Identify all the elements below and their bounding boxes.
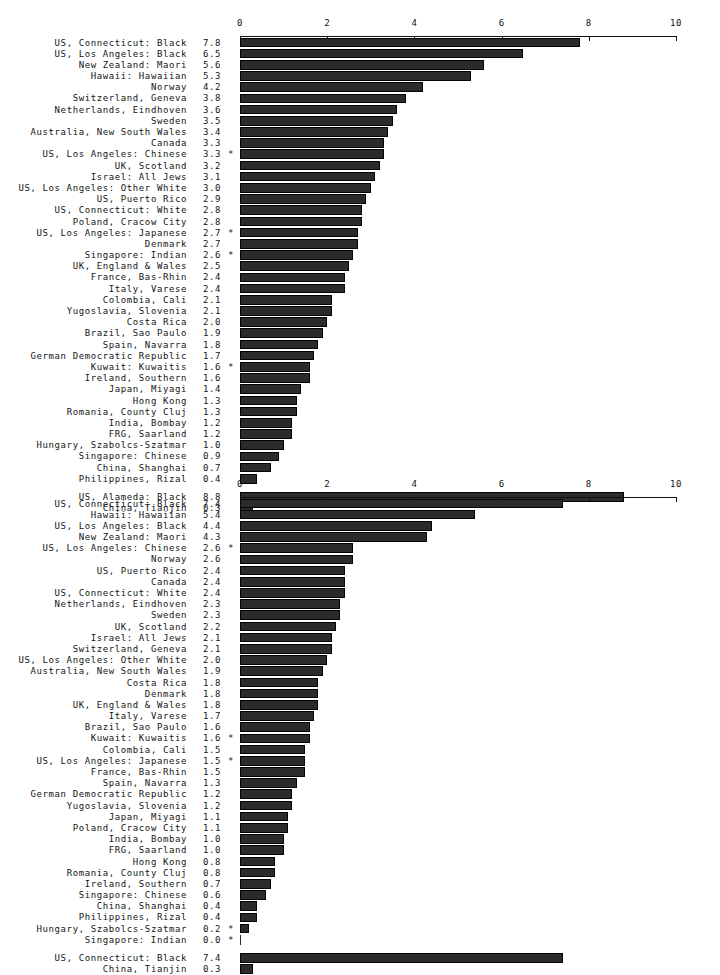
chart-row: US, Los Angeles: Black4.4 <box>0 520 720 531</box>
value-label: 2.4 <box>191 272 221 282</box>
value-label: 2.1 <box>191 295 221 305</box>
category-label: Kuwait: Kuwaitis <box>1 733 187 743</box>
bar <box>240 610 340 620</box>
category-label: US, Connecticut: Black <box>1 953 187 963</box>
bar <box>240 94 406 104</box>
category-label: Ireland, Southern <box>1 373 187 383</box>
row-label-wrap: Japan, Miyagi <box>0 811 187 822</box>
value-label: 2.1 <box>191 633 221 643</box>
value-label: 5.4 <box>191 510 221 520</box>
row-label-wrap: Colombia, Cali <box>0 294 187 305</box>
category-label: US, Los Angeles: Other White <box>1 655 187 665</box>
chart-row: Israel: All Jews2.1 <box>0 632 720 643</box>
row-label-wrap: Singapore: Indian <box>0 934 187 945</box>
value-label: 1.8 <box>191 700 221 710</box>
chart-row: Singapore: Indian2.6* <box>0 250 720 261</box>
category-label: Denmark <box>1 689 187 699</box>
category-label: Australia, New South Wales <box>1 666 187 676</box>
bar <box>240 644 332 654</box>
row-label-wrap: Canada <box>0 576 187 587</box>
x-axis-tick-label: 2 <box>324 18 330 28</box>
bar <box>240 890 266 900</box>
category-label: Costa Rica <box>1 678 187 688</box>
chart-row: US, Connecticut: Black7.8 <box>0 37 720 48</box>
value-label: 1.8 <box>191 678 221 688</box>
value-label: 2.4 <box>191 566 221 576</box>
chart-row: Costa Rica2.0 <box>0 317 720 328</box>
chart-row: Philippines, Rizal0.4 <box>0 912 720 923</box>
category-label: Norway <box>1 82 187 92</box>
row-label-wrap: US, Los Angeles: Other White <box>0 182 187 193</box>
category-label: US, Los Angeles: Chinese <box>1 543 187 553</box>
category-label: Australia, New South Wales <box>1 127 187 137</box>
chart-row: Hungary, Szabolcs-Szatmar1.0 <box>0 440 720 451</box>
bar <box>240 655 327 665</box>
category-label: Colombia, Cali <box>1 745 187 755</box>
category-label: US, Connecticut: Black <box>1 499 187 509</box>
chart-row: China, Shanghai0.7 <box>0 462 720 473</box>
value-label: 4.3 <box>191 532 221 542</box>
bar <box>240 700 318 710</box>
row-label-wrap: UK, Scotland <box>0 160 187 171</box>
bar <box>240 149 384 159</box>
value-label: 2.1 <box>191 306 221 316</box>
value-label: 1.2 <box>191 418 221 428</box>
category-label: Israel: All Jews <box>1 633 187 643</box>
value-label: 1.7 <box>191 351 221 361</box>
category-label: Israel: All Jews <box>1 172 187 182</box>
value-label: 1.5 <box>191 756 221 766</box>
chart-row: US, Los Angeles: Other White3.0 <box>0 182 720 193</box>
bar <box>240 161 380 171</box>
chart-row: US, Connecticut: Black7.4 <box>0 498 720 509</box>
row-label-wrap: Israel: All Jews <box>0 171 187 182</box>
row-label-wrap: UK, England & Wales <box>0 699 187 710</box>
chart-row: Colombia, Cali1.5 <box>0 744 720 755</box>
category-label: Canada <box>1 577 187 587</box>
chart-row: Switzerland, Geneva2.1 <box>0 643 720 654</box>
row-label-wrap: China, Shanghai <box>0 462 187 473</box>
row-label-wrap: Australia, New South Wales <box>0 666 187 677</box>
x-axis-tick-label: 0 <box>237 479 243 489</box>
category-label: Colombia, Cali <box>1 295 187 305</box>
bar <box>240 105 397 115</box>
x-axis-tick-label: 6 <box>499 18 505 28</box>
value-label: 2.7 <box>191 239 221 249</box>
chart-row: Spain, Navarra1.3 <box>0 778 720 789</box>
row-label-wrap: Italy, Varese <box>0 711 187 722</box>
row-label-wrap: US, Connecticut: Black <box>0 498 187 509</box>
row-label-wrap: US, Los Angeles: Black <box>0 520 187 531</box>
bar <box>240 924 249 934</box>
row-label-wrap: France, Bas-Rhin <box>0 767 187 778</box>
category-label: German Democratic Republic <box>1 789 187 799</box>
chart-row: UK, England & Wales1.8 <box>0 699 720 710</box>
value-label: 2.4 <box>191 588 221 598</box>
value-label: 0.3 <box>191 964 221 974</box>
row-label-wrap: New Zealand: Maori <box>0 59 187 70</box>
bar <box>240 116 393 126</box>
row-label-wrap: Hungary, Szabolcs-Szatmar <box>0 440 187 451</box>
row-label-wrap: New Zealand: Maori <box>0 532 187 543</box>
value-label: 2.6 <box>191 250 221 260</box>
row-label-wrap: US, Los Angeles: Other White <box>0 655 187 666</box>
bar <box>240 183 371 193</box>
category-label: US, Connecticut: Black <box>1 38 187 48</box>
value-label: 1.0 <box>191 440 221 450</box>
bar <box>240 418 292 428</box>
chart-row: Singapore: Chinese0.9 <box>0 451 720 462</box>
row-label-wrap: Philippines, Rizal <box>0 912 187 923</box>
category-label: China, Tianjin <box>1 964 187 974</box>
bar <box>240 555 353 565</box>
row-label-wrap: Romania, County Cluj <box>0 867 187 878</box>
bar <box>240 633 332 643</box>
row-label-wrap: Sweden <box>0 610 187 621</box>
chart-row: FRG, Saarland1.0 <box>0 845 720 856</box>
category-label: Hong Kong <box>1 857 187 867</box>
value-label: 1.5 <box>191 745 221 755</box>
value-label: 3.1 <box>191 172 221 182</box>
bar <box>240 935 241 945</box>
chart-row: Denmark2.7 <box>0 238 720 249</box>
value-label: 1.9 <box>191 666 221 676</box>
chart-row: US, Los Angeles: Other White2.0 <box>0 655 720 666</box>
chart-row: Brazil, Sao Paulo1.6 <box>0 722 720 733</box>
x-axis-tick-label: 4 <box>411 479 417 489</box>
